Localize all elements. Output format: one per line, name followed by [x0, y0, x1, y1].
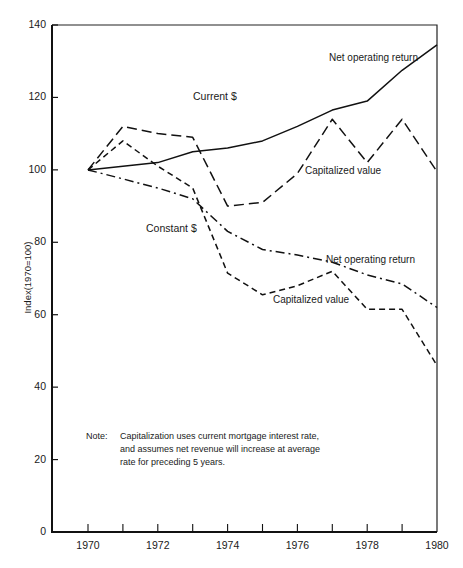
label-current-net-operating-return: Net operating return	[329, 52, 418, 63]
note-line-1: Capitalization uses current mortgage int…	[120, 430, 320, 443]
y-tick-label: 100	[18, 163, 46, 175]
series-line	[88, 170, 437, 308]
data-lines	[88, 45, 437, 366]
x-tick-label: 1972	[138, 539, 178, 551]
label-constant-dollars: Constant $	[146, 222, 197, 234]
chart-plot	[0, 0, 463, 568]
series-line	[88, 119, 437, 206]
x-tick-label: 1970	[68, 539, 108, 551]
y-tick-label: 120	[18, 90, 46, 102]
y-tick-label: 140	[18, 18, 46, 30]
note-line-3: rate for preceding 5 years.	[120, 456, 320, 469]
x-tick-label: 1976	[277, 539, 317, 551]
x-tick-label: 1978	[347, 539, 387, 551]
y-tick-label: 0	[18, 525, 46, 537]
y-axis-label: Index(1970=100)	[22, 223, 33, 333]
y-tick-label: 20	[18, 453, 46, 465]
label-current-dollars: Current $	[193, 90, 237, 102]
label-constant-net-operating-return: Net operating return	[326, 254, 415, 265]
x-tick-label: 1974	[208, 539, 248, 551]
y-tick-label: 40	[18, 380, 46, 392]
label-current-capitalized-value: Capitalized value	[305, 165, 381, 176]
note-head: Note:	[86, 430, 108, 443]
x-tick-label: 1980	[417, 539, 457, 551]
series-line	[88, 45, 437, 170]
chart-note: Note: Capitalization uses current mortga…	[86, 430, 320, 469]
note-line-2: and assumes net revenue will increase at…	[120, 443, 320, 456]
label-constant-capitalized-value: Capitalized value	[273, 294, 349, 305]
